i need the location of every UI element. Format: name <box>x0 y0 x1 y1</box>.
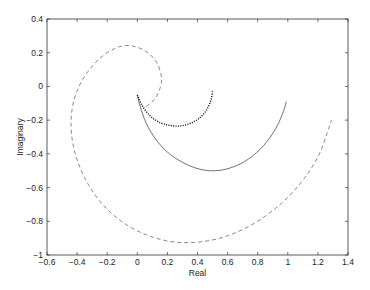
x-tick-label: −0.2 <box>99 257 116 267</box>
y-axis-label: Imaginary <box>15 118 25 156</box>
series-dashed-line <box>71 46 331 243</box>
x-tick-label: 1.4 <box>342 257 354 267</box>
x-tick-label: 0 <box>135 257 140 267</box>
x-tick-label: −0.4 <box>69 257 86 267</box>
x-axis-label: Real <box>189 268 207 278</box>
x-tick-label: 0.6 <box>222 257 234 267</box>
y-tick-label: 0.2 <box>31 48 43 58</box>
y-tick-label: −0.6 <box>26 183 43 193</box>
x-tick-label: 0.4 <box>192 257 204 267</box>
y-tick-label: −0.4 <box>26 149 43 159</box>
y-tick-label: −0.8 <box>26 216 43 226</box>
y-tick-label: 0 <box>38 81 43 91</box>
y-tick-label: −0.2 <box>26 115 43 125</box>
y-tick-label: 0.4 <box>31 14 43 24</box>
x-tick-label: 1 <box>285 257 290 267</box>
chart-canvas: −0.6−0.4−0.200.20.40.60.811.21.40.40.20−… <box>0 0 370 290</box>
axes-box <box>47 19 348 255</box>
series-layer <box>71 46 331 243</box>
series-solid-line <box>137 95 286 171</box>
y-tick-label: −1 <box>33 250 43 260</box>
series-dotted-line <box>137 91 212 126</box>
x-tick-label: 0.8 <box>252 257 264 267</box>
ticks-layer: −0.6−0.4−0.200.20.40.60.811.21.40.40.20−… <box>26 14 354 267</box>
x-tick-label: 1.2 <box>312 257 324 267</box>
x-tick-label: 0.2 <box>161 257 173 267</box>
